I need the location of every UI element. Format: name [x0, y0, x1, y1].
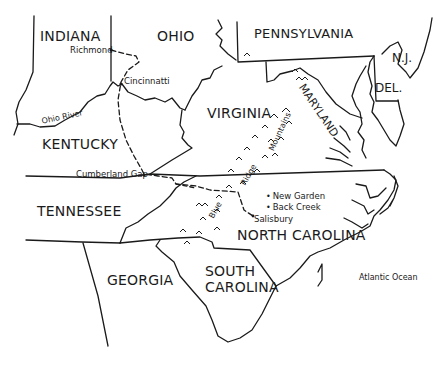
- atlantic-ocean-label: Atlantic Ocean: [359, 274, 418, 282]
- ohio-east-border: [185, 66, 222, 110]
- state-label-kentucky: KENTUCKY: [42, 137, 118, 151]
- cincinnati-dot: [119, 82, 122, 85]
- state-label-tennessee: TENNESSEE: [37, 204, 121, 218]
- city-label-back-creek: Back Creek: [266, 203, 321, 212]
- historical-map: INDIANA OHIO PENNSYLVANIA N.J. DEL. VIRG…: [0, 0, 444, 365]
- city-label-richmond: Richmond: [70, 46, 113, 55]
- state-label-ohio: OHIO: [157, 29, 195, 43]
- map-linework: [0, 0, 444, 365]
- nc-sounds: [344, 176, 398, 228]
- state-label-south: SOUTH: [205, 264, 255, 278]
- migration-trail: [111, 50, 253, 216]
- state-label-georgia: GEORGIA: [107, 273, 173, 287]
- nj-coast: [382, 18, 432, 78]
- chesapeake-west: [352, 66, 366, 158]
- state-label-pennsylvania: PENNSYLVANIA: [254, 27, 353, 40]
- state-label-virginia: VIRGINIA: [207, 106, 271, 120]
- city-label-salisbury: Salisbury: [254, 215, 293, 224]
- state-label-nj: N.J.: [392, 52, 412, 64]
- city-label-cumberland-gap: Cumberland Gap: [76, 170, 148, 179]
- city-label-new-garden: New Garden: [266, 192, 325, 201]
- state-label-delaware: DEL.: [375, 82, 402, 94]
- tennessee-south-border: [26, 240, 120, 243]
- city-label-cincinnati: Cincinnatti: [124, 77, 170, 86]
- indiana-west-border: [14, 16, 34, 135]
- state-label-north-carolina: NORTH CAROLINA: [237, 228, 366, 242]
- pa-west: [216, 20, 236, 60]
- kentucky-virginia-border: [150, 110, 192, 174]
- georgia-west-border: [83, 243, 108, 346]
- state-label-carolina: CAROLINA: [205, 280, 279, 294]
- nc-inlet: [318, 264, 322, 286]
- state-label-indiana: INDIANA: [40, 29, 101, 43]
